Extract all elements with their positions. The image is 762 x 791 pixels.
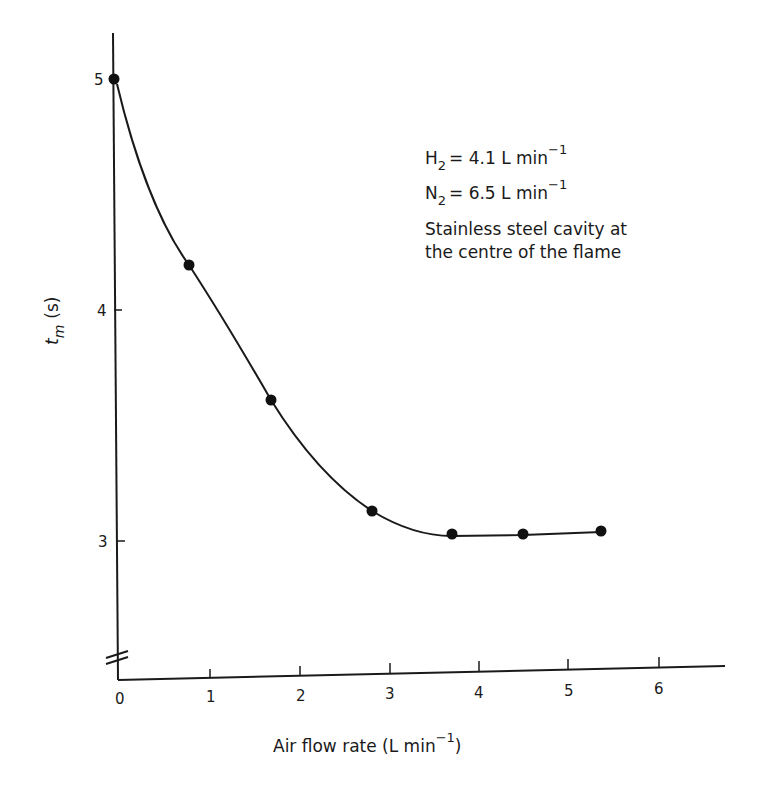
x-tick-label-3: 3: [385, 685, 395, 703]
data-point: [367, 506, 378, 517]
x-tick-label-2: 2: [296, 687, 306, 705]
svg-text:N2= 6.5 L min−1: N2= 6.5 L min−1: [425, 177, 567, 208]
x-axis-title-close: ): [455, 736, 462, 756]
y-tick-label-3: 3: [98, 533, 108, 551]
x-tick-label-6: 6: [654, 680, 664, 698]
ann-n2-subscript: 2: [438, 193, 446, 208]
x-axis-title-sup: −1: [436, 730, 455, 745]
y-axis-title: tm(s): [42, 297, 67, 345]
x-tick-label-4: 4: [474, 684, 484, 702]
y-axis-title-sub: m: [51, 325, 67, 339]
y-axis-title-unit: (s): [42, 297, 62, 319]
ann-line-3: Stainless steel cavity at: [425, 219, 627, 239]
svg-text:tm(s): tm(s): [42, 297, 67, 345]
x-tick-label-1: 1: [206, 688, 216, 706]
ann-h2-value: = 4.1 L min: [449, 148, 548, 168]
ann-n2-superscript: −1: [548, 177, 567, 192]
ann-h2-symbol: H: [425, 148, 438, 168]
ann-h2-subscript: 2: [438, 158, 446, 173]
data-point: [266, 395, 277, 406]
data-point: [109, 74, 120, 85]
chart: 5 4 3 0 1 2 3 4 5 6 H2= 4.1 L min−1 N2= …: [0, 0, 762, 791]
data-points: [109, 74, 607, 540]
y-axis: [113, 33, 118, 680]
x-tick-label-5: 5: [564, 682, 574, 700]
x-axis-title-main: Air flow rate (L min: [273, 736, 436, 756]
data-point: [596, 526, 607, 537]
ann-n2-value: = 6.5 L min: [449, 183, 548, 203]
data-point: [447, 529, 458, 540]
data-point: [518, 529, 529, 540]
x-axis: [118, 666, 725, 680]
ann-h2-superscript: −1: [548, 142, 567, 157]
data-point: [184, 260, 195, 271]
ann-n2-symbol: N: [425, 183, 438, 203]
annotation: H2= 4.1 L min−1 N2= 6.5 L min−1 Stainles…: [425, 142, 627, 262]
svg-text:H2= 4.1 L min−1: H2= 4.1 L min−1: [425, 142, 567, 173]
ann-line-4: the centre of the flame: [425, 242, 621, 262]
y-tick-label-4: 4: [97, 302, 107, 320]
x-ticks: [210, 657, 659, 678]
x-axis-title: Air flow rate (L min−1): [273, 730, 461, 756]
y-tick-label-5: 5: [94, 71, 104, 89]
x-tick-label-0: 0: [115, 690, 125, 708]
